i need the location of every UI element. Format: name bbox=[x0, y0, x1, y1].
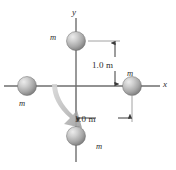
figure-canvas bbox=[0, 0, 176, 170]
mass-label-bottom: m bbox=[96, 142, 102, 151]
mass-sphere-left bbox=[18, 77, 37, 96]
physics-diagram-figure: y x m m m m 1.0 m 1.0 m bbox=[0, 0, 176, 170]
x-axis-label: x bbox=[163, 80, 167, 89]
vertical-dimension-label: 1.0 m bbox=[92, 61, 113, 70]
mass-sphere-bottom bbox=[67, 127, 86, 146]
mass-spheres bbox=[18, 32, 142, 146]
mass-label-left: m bbox=[19, 99, 25, 108]
mass-sphere-top bbox=[67, 32, 86, 51]
y-axis-label: y bbox=[72, 8, 76, 17]
mass-label-right: m bbox=[127, 69, 133, 78]
mass-label-top: m bbox=[50, 33, 56, 42]
mass-sphere-right bbox=[123, 77, 142, 96]
horizontal-dimension-label: 1.0 m bbox=[74, 115, 95, 124]
